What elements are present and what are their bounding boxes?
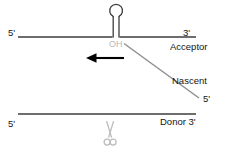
strand-transfer-diagram: 5' 3' Acceptor Nascent 5' 5' Donor 3' OH xyxy=(0,0,226,156)
donor-five-prime-label: 5' xyxy=(8,119,15,129)
acceptor-three-prime-label: 3' xyxy=(183,28,190,38)
nascent-strand-label: Nascent xyxy=(172,76,207,86)
scissors-icon xyxy=(104,121,116,145)
acceptor-strand-label: Acceptor xyxy=(170,42,208,52)
nascent-five-prime-label: 5' xyxy=(203,94,210,104)
hydroxyl-label: OH xyxy=(109,40,123,49)
acceptor-five-prime-label: 5' xyxy=(8,28,15,38)
leftward-arrow-icon xyxy=(86,53,124,63)
hairpin-loop-icon xyxy=(110,4,123,16)
donor-strand-label: Donor 3' xyxy=(160,117,196,127)
